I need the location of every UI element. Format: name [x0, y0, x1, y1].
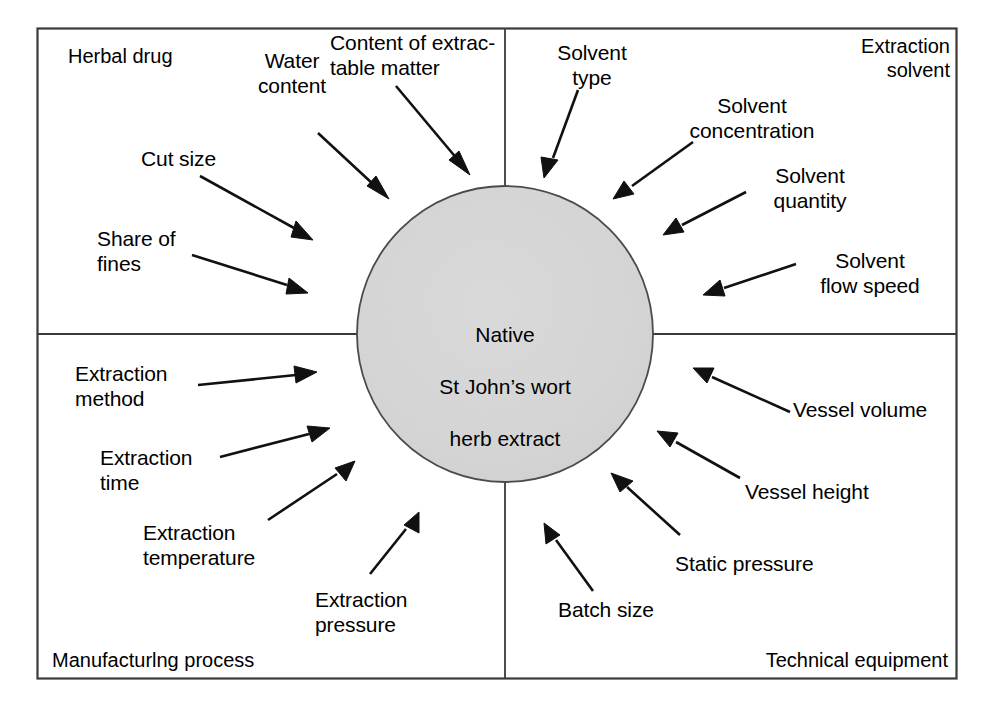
central-effect-line-1: Native [357, 322, 653, 348]
central-effect-line-2: St John’s wort [357, 374, 653, 400]
central-effect-line-3: herb extract [357, 426, 653, 452]
factor-label-solvent-quantity: Solvent quantity [740, 163, 880, 213]
factor-label-share-of-fines: Share of fines [97, 226, 227, 276]
quadrant-title-extraction-solvent: Extraction solvent [690, 34, 950, 82]
factor-label-vessel-volume: Vessel volume [793, 397, 983, 422]
arrow-solvent-concentration [613, 142, 693, 199]
arrow-vessel-height [657, 431, 740, 478]
factor-label-content-extractable-matter: Content of extrac- table matter [330, 30, 530, 80]
factor-label-solvent-type: Solvent type [532, 40, 652, 90]
factor-label-vessel-height: Vessel height [745, 479, 935, 504]
arrow-solvent-quantity [663, 192, 746, 235]
arrow-batch-size [544, 523, 593, 591]
factor-label-solvent-flow-speed: Solvent flow speed [790, 248, 950, 298]
factor-label-batch-size: Batch size [558, 597, 728, 622]
arrow-extraction-temperature [268, 461, 355, 520]
arrow-content-extractable-matter [396, 86, 470, 175]
factor-label-cut-size: Cut size [141, 146, 271, 171]
arrow-solvent-flow-speed [703, 264, 796, 296]
central-effect-label: Native St John’s wort herb extract [357, 296, 653, 478]
quadrant-title-herbal-drug: Herbal drug [68, 44, 173, 68]
factor-label-extraction-temperature: Extraction temperature [143, 520, 353, 570]
quadrant-title-technical-equipment: Technical equipment [628, 648, 948, 672]
arrow-static-pressure [611, 473, 680, 535]
arrow-extraction-pressure [370, 512, 419, 574]
quadrant-title-manufacturing-process: Manufacturlng process [52, 648, 254, 672]
factor-label-solvent-concentration: Solvent concentration [655, 93, 849, 143]
factor-label-extraction-time: Extraction time [100, 445, 280, 495]
factor-label-static-pressure: Static pressure [675, 551, 875, 576]
factor-label-extraction-pressure: Extraction pressure [315, 587, 505, 637]
arrow-solvent-type [541, 90, 578, 178]
diagram-root: Herbal drug Extraction solvent Manufactu… [0, 0, 992, 714]
arrow-vessel-volume [693, 368, 790, 412]
arrow-water-content [318, 133, 389, 199]
factor-label-extraction-method: Extraction method [75, 361, 255, 411]
